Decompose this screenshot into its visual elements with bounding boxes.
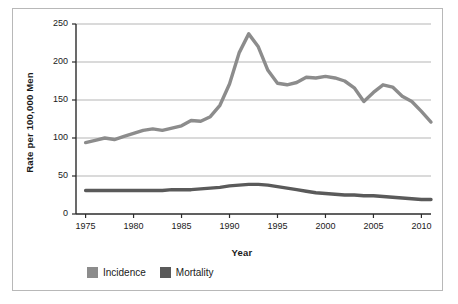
x-tick-label: 1975: [66, 221, 106, 231]
y-tick-label: 150: [34, 94, 68, 104]
legend-swatch-mortality: [160, 267, 171, 278]
legend-label-incidence: Incidence: [103, 267, 146, 278]
x-tick-label: 1980: [114, 221, 154, 231]
y-tick-label: 50: [34, 170, 68, 180]
y-tick-label: 100: [34, 132, 68, 142]
x-tick-label: 2010: [401, 221, 441, 231]
x-tick-label: 1995: [257, 221, 297, 231]
x-tick-label: 2005: [353, 221, 393, 231]
chart-legend: Incidence Mortality: [87, 267, 214, 278]
y-tick-label: 250: [34, 18, 68, 28]
x-tick-label: 1990: [210, 221, 250, 231]
chart-frame: Rate per 100,000 Men Year Incidence Mort…: [12, 8, 443, 291]
legend-swatch-incidence: [87, 267, 98, 278]
x-axis-title: Year: [13, 247, 458, 258]
x-tick-label: 2000: [305, 221, 345, 231]
series-line-incidence: [86, 34, 431, 143]
legend-label-mortality: Mortality: [176, 267, 214, 278]
y-tick-label: 0: [34, 208, 68, 218]
y-axis-title: Rate per 100,000 Men: [24, 63, 35, 183]
y-tick-label: 200: [34, 56, 68, 66]
legend-item-mortality: Mortality: [160, 267, 214, 278]
series-line-mortality: [86, 184, 431, 199]
legend-item-incidence: Incidence: [87, 267, 146, 278]
x-tick-label: 1985: [162, 221, 202, 231]
chart-figure: Rate per 100,000 Men Year Incidence Mort…: [0, 0, 458, 304]
